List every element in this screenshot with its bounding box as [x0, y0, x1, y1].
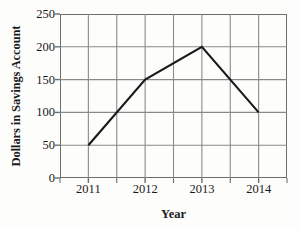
y-tick-label: 0: [1, 171, 55, 186]
line-chart: Dollars in Savings Account 0501001502002…: [0, 0, 299, 229]
y-tick-label: 250: [1, 7, 55, 22]
plot-graphics: [60, 14, 287, 178]
x-tick-label: 2014: [229, 182, 289, 197]
x-tick-label: 2013: [172, 182, 232, 197]
vertical-gridlines: [88, 14, 258, 178]
axis-tick-marks: [55, 14, 287, 183]
y-tick-label: 50: [1, 138, 55, 153]
x-tick-label: 2012: [115, 182, 175, 197]
y-axis-tick-labels: 050100150200250: [0, 0, 55, 229]
y-tick-label: 100: [1, 105, 55, 120]
x-axis-title: Year: [59, 207, 288, 222]
y-tick-label: 200: [1, 39, 55, 54]
y-tick-label: 150: [1, 72, 55, 87]
x-tick-label: 2011: [58, 182, 118, 197]
